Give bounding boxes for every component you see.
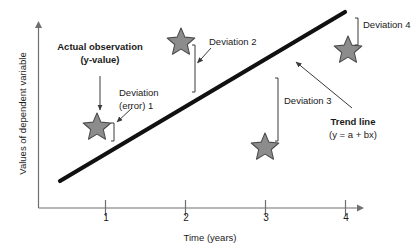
deviation-2-arrow bbox=[198, 48, 212, 63]
trend-line-label-line1: Trend line bbox=[294, 116, 412, 127]
y-axis-title: Values of dependent variable bbox=[17, 34, 28, 194]
x-tick-label-3: 3 bbox=[256, 212, 276, 224]
trend-line-scatter-figure: Values of dependent variable Time (years… bbox=[0, 0, 420, 252]
deviation-1-label-line1: Deviation bbox=[119, 87, 159, 98]
deviation-2-label: Deviation 2 bbox=[209, 36, 257, 47]
x-tick-label-1: 1 bbox=[96, 212, 116, 224]
actual-observation-label-line1: Actual observation bbox=[30, 41, 170, 52]
x-tick-label-4: 4 bbox=[336, 212, 356, 224]
star-observation-2 bbox=[167, 28, 195, 54]
actual-observation-label-line2: (y-value) bbox=[30, 54, 170, 65]
deviation-1-label-line2: (error) 1 bbox=[119, 100, 153, 111]
trend-line-label-line2: (y = a + bx) bbox=[294, 129, 412, 140]
deviation-3-label: Deviation 3 bbox=[284, 95, 332, 106]
x-axis-title: Time (years) bbox=[160, 232, 260, 243]
x-tick-label-2: 2 bbox=[176, 212, 196, 224]
deviation-2-bracket bbox=[192, 45, 195, 92]
star-observation-1 bbox=[83, 113, 111, 139]
star-observation-3 bbox=[251, 133, 279, 159]
deviation-3-bracket bbox=[275, 78, 278, 141]
deviation-1-bracket bbox=[111, 123, 114, 141]
deviation-4-label: Deviation 4 bbox=[363, 19, 411, 30]
deviation-4-bracket bbox=[355, 18, 358, 45]
